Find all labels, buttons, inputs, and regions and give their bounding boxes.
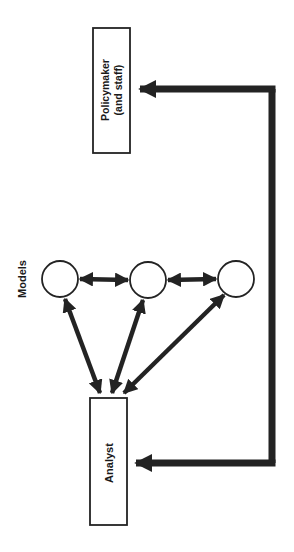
analyst-box: Analyst (90, 398, 127, 525)
diagram-canvas: Policymaker (and staff) Models Analyst (0, 0, 294, 552)
model-node-1 (42, 261, 78, 297)
model-node-3 (218, 261, 254, 297)
analyst-label: Analyst (103, 443, 115, 483)
model-node-2 (130, 262, 166, 298)
policymaker-label-line1: Policymaker (99, 59, 111, 121)
models-label: Models (16, 260, 28, 298)
policymaker-box: Policymaker (and staff) (93, 28, 130, 153)
policymaker-label-line2: (and staff) (112, 65, 124, 116)
arrow-analyst-model1 (65, 299, 100, 393)
arrow-model1-model2 (80, 279, 128, 280)
arrow-model2-model3 (168, 279, 216, 280)
